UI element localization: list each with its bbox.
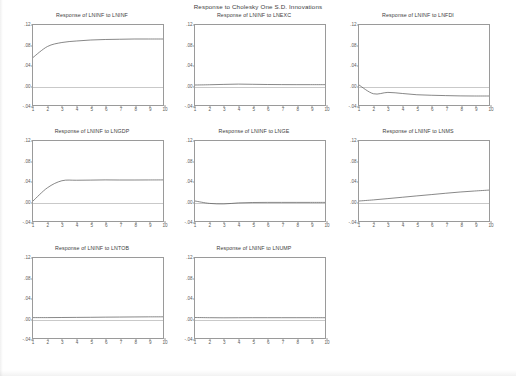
irf-panel-lnge: Response of LNINF to LNGE.12.08.04.00-.0… [172,128,336,240]
y-axis-tick-label: .00 [350,200,356,205]
y-axis-tick-label: .08 [24,276,30,281]
x-axis-tick-label: 3 [61,341,64,346]
x-axis-tick-mark [253,105,254,108]
irf-panel-lnms: Response of LNINF to LNMS.12.08.04.00-.0… [336,128,500,240]
x-axis-tick-label: 5 [90,224,93,229]
x-axis-tick-label: 9 [475,224,478,229]
y-axis-tick-label: .12 [24,139,30,144]
irf-series-line [195,141,325,221]
x-axis-tick-label: 6 [105,341,108,346]
x-axis-tick-label: 5 [252,341,255,346]
irf-panel-lninf: Response of LNINF to LNINF.12.08.04.00-.… [10,12,174,124]
y-axis-tick-label: -.04 [185,338,193,343]
x-axis-tick-label: 8 [296,108,299,113]
x-axis-tick-label: 1 [194,108,197,113]
x-axis-tick-label: 8 [134,224,137,229]
irf-series-line [359,25,489,105]
x-axis-tick-label: 7 [120,108,123,113]
y-axis-tick-label: .08 [350,43,356,48]
x-axis-tick-mark [283,338,284,341]
x-axis-tick-label: 2 [372,108,375,113]
x-axis-tick-label: 10 [488,108,493,113]
x-axis-tick-mark [62,338,63,341]
x-axis-tick-label: 6 [267,108,270,113]
x-axis-tick-label: 5 [252,108,255,113]
x-axis-tick-label: 3 [387,108,390,113]
x-axis-tick-label: 5 [90,341,93,346]
plot-area: .12.08.04.00-.0412345678910 [194,140,326,222]
x-axis-tick-label: 10 [162,224,167,229]
x-axis-tick-mark [165,338,166,341]
x-axis-tick-mark [33,105,34,108]
y-axis-tick-label: -.04 [23,105,31,110]
y-axis-tick-label: .00 [186,84,192,89]
x-axis-tick-mark [121,338,122,341]
panel-title: Response of LNINF to LNINF [10,12,174,18]
x-axis-tick-mark [283,105,284,108]
y-axis-tick-label: .12 [24,256,30,261]
x-axis-tick-label: 6 [267,224,270,229]
x-axis-tick-label: 9 [475,108,478,113]
y-axis-tick-label: .04 [186,297,192,302]
x-axis-tick-label: 7 [446,224,449,229]
y-axis-tick-label: .00 [24,317,30,322]
x-axis-tick-mark [268,221,269,224]
y-axis-tick-label: -.04 [23,221,31,226]
x-axis-tick-label: 6 [105,108,108,113]
panel-title: Response of LNINF to LNFDI [336,12,500,18]
x-axis-tick-mark [195,105,196,108]
x-axis-tick-mark [312,221,313,224]
irf-panel-lngdp: Response of LNINF to LNGDP.12.08.04.00-.… [10,128,174,240]
x-axis-tick-mark [312,338,313,341]
x-axis-tick-label: 7 [282,224,285,229]
x-axis-tick-mark [359,105,360,108]
irf-panel-lnfdi: Response of LNINF to LNFDI.12.08.04.00-.… [336,12,500,124]
y-axis-tick-label: .04 [24,180,30,185]
y-axis-tick-label: .00 [24,84,30,89]
x-axis-tick-mark [253,221,254,224]
x-axis-tick-label: 4 [76,341,79,346]
x-axis-tick-mark [91,105,92,108]
x-axis-tick-label: 2 [208,224,211,229]
x-axis-tick-label: 10 [324,224,329,229]
irf-series-line [195,25,325,105]
x-axis-tick-mark [91,221,92,224]
x-axis-tick-mark [388,105,389,108]
y-axis-tick-label: .12 [350,139,356,144]
x-axis-tick-mark [77,105,78,108]
y-axis-tick-label: -.04 [349,221,357,226]
x-axis-tick-label: 2 [208,341,211,346]
x-axis-tick-label: 10 [162,341,167,346]
y-axis-tick-label: .04 [350,64,356,69]
x-axis-tick-mark [327,221,328,224]
x-axis-tick-label: 9 [149,108,152,113]
x-axis-tick-label: 2 [46,341,49,346]
x-axis-tick-label: 4 [76,224,79,229]
x-axis-tick-label: 7 [120,224,123,229]
x-axis-tick-label: 3 [223,341,226,346]
x-axis-tick-label: 4 [238,341,241,346]
x-axis-tick-mark [359,221,360,224]
x-axis-tick-mark [224,105,225,108]
x-axis-tick-label: 6 [431,224,434,229]
x-axis-tick-label: 7 [446,108,449,113]
x-axis-tick-mark [77,221,78,224]
x-axis-tick-mark [121,221,122,224]
panel-title: Response of LNINF to LNUMP [172,245,336,251]
x-axis-tick-mark [135,338,136,341]
x-axis-tick-label: 8 [296,224,299,229]
irf-series-line [359,141,489,221]
y-axis-tick-label: .04 [186,180,192,185]
x-axis-tick-mark [150,105,151,108]
x-axis-tick-label: 6 [431,108,434,113]
panel-title: Response of LNINF to LNMS [336,128,500,134]
y-axis-tick-label: .08 [186,159,192,164]
x-axis-tick-mark [447,221,448,224]
irf-figure: Response to Cholesky One S.D. Innovation… [0,0,516,376]
x-axis-tick-label: 4 [402,108,405,113]
x-axis-tick-mark [461,105,462,108]
panel-title: Response of LNINF to LNGDP [10,128,174,134]
x-axis-tick-mark [150,221,151,224]
x-axis-tick-mark [461,221,462,224]
x-axis-tick-mark [91,338,92,341]
